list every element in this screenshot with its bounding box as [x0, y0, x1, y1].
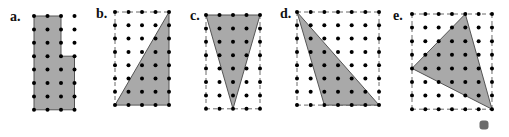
grid-dot — [490, 12, 494, 16]
grid-dot — [258, 80, 262, 84]
grid-dot — [295, 103, 299, 107]
grid-dot — [73, 68, 77, 72]
panel-label-e: e. — [393, 8, 403, 23]
grid-dot — [336, 77, 340, 81]
grid-dot — [322, 63, 326, 67]
grid-dot — [490, 80, 494, 84]
grid-dot — [437, 12, 441, 16]
grid-dot — [231, 80, 235, 84]
grey-rounded-marker — [480, 121, 489, 130]
grid-dot — [377, 103, 381, 107]
grid-dot — [59, 27, 63, 31]
grid-dot — [322, 10, 326, 14]
grid-dot — [295, 90, 299, 94]
grid-dot — [463, 94, 467, 98]
grid-dot — [140, 50, 144, 54]
grid-dot — [410, 94, 414, 98]
grid-dot — [336, 37, 340, 41]
grid-dot — [46, 14, 50, 18]
grid-dot — [490, 107, 494, 111]
grid-dot — [204, 93, 208, 97]
grid-dot — [490, 66, 494, 70]
grid-dot — [450, 66, 454, 70]
grid-dot — [32, 27, 36, 31]
grid-dot — [154, 23, 158, 27]
grid-dot — [477, 107, 481, 111]
grid-dot — [309, 50, 313, 54]
grid-dot — [350, 77, 354, 81]
grid-dot — [423, 39, 427, 43]
grid-dot — [410, 39, 414, 43]
grid-dot — [490, 53, 494, 57]
grid-dot — [309, 63, 313, 67]
grid-dot — [336, 103, 340, 107]
grid-dot — [73, 27, 77, 31]
grid-dot — [154, 37, 158, 41]
grid-dot — [46, 94, 50, 98]
grid-dot — [140, 63, 144, 67]
grid-dot — [377, 90, 381, 94]
grid-dot — [154, 90, 158, 94]
grid-dot — [450, 107, 454, 111]
grid-dot — [377, 50, 381, 54]
grid-dot — [450, 12, 454, 16]
panel-label-c: c. — [190, 8, 200, 23]
grid-dot — [377, 77, 381, 81]
grid-dot — [258, 13, 262, 17]
grid-dot — [32, 14, 36, 18]
grid-dot — [410, 80, 414, 84]
grid-dot — [46, 108, 50, 112]
grid-dot — [127, 37, 131, 41]
grid-dot — [113, 63, 117, 67]
grid-dot — [32, 81, 36, 85]
grid-dot — [167, 50, 171, 54]
grid-dot — [127, 50, 131, 54]
grid-dot — [295, 23, 299, 27]
grid-dot — [73, 81, 77, 85]
grid-dot — [258, 67, 262, 71]
grid-dot — [295, 37, 299, 41]
grid-dot — [295, 10, 299, 14]
panel-a: a. — [10, 9, 77, 112]
grid-dot — [437, 66, 441, 70]
grid-dot — [127, 63, 131, 67]
grid-dot — [309, 37, 313, 41]
grid-dot — [410, 26, 414, 30]
grid-dot — [477, 12, 481, 16]
grid-dot — [140, 37, 144, 41]
grid-dot — [437, 80, 441, 84]
grid-dot — [423, 107, 427, 111]
grid-dot — [450, 26, 454, 30]
grid-dot — [73, 14, 77, 18]
grid-dot — [377, 23, 381, 27]
grid-dot — [167, 103, 171, 107]
grid-dot — [295, 63, 299, 67]
grid-dot — [218, 107, 222, 111]
grid-dot — [204, 53, 208, 57]
grid-dot — [350, 50, 354, 54]
grid-dot — [245, 26, 249, 30]
grid-dot — [423, 53, 427, 57]
grid-dot — [32, 41, 36, 45]
grid-dot — [423, 94, 427, 98]
grid-dot — [46, 27, 50, 31]
panel-label-d: d. — [280, 6, 291, 21]
grid-dot — [245, 53, 249, 57]
grid-dot — [423, 26, 427, 30]
grid-dot — [113, 90, 117, 94]
grid-dot — [218, 26, 222, 30]
grid-dot — [363, 50, 367, 54]
grid-dot — [167, 10, 171, 14]
grid-dot — [231, 13, 235, 17]
grid-dot — [218, 40, 222, 44]
grid-dot — [231, 26, 235, 30]
grid-dot — [113, 10, 117, 14]
grid-dot — [59, 81, 63, 85]
grid-dot — [167, 23, 171, 27]
grid-dot — [154, 63, 158, 67]
grid-dot — [73, 94, 77, 98]
grid-dot — [140, 77, 144, 81]
grid-dot — [477, 53, 481, 57]
grid-dot — [46, 41, 50, 45]
grid-dot — [113, 77, 117, 81]
